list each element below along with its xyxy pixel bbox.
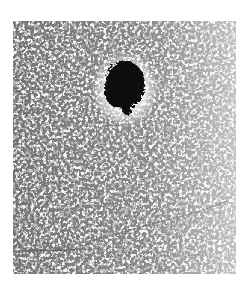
image-canvas — [0, 0, 248, 290]
fiber-strand-horizontal — [17, 250, 75, 251]
micrograph-field — [13, 21, 236, 274]
cell-texture — [13, 21, 236, 274]
